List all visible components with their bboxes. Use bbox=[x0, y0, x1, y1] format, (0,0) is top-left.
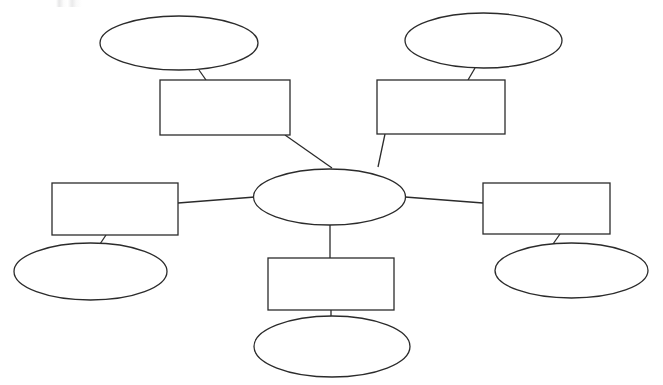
box-top-right[interactable] bbox=[377, 80, 505, 134]
connector-center-to-top-right-box bbox=[378, 134, 385, 167]
bubble-bottom[interactable] bbox=[254, 316, 410, 377]
bubble-right[interactable] bbox=[495, 243, 648, 298]
central-topic-ellipse[interactable] bbox=[254, 169, 406, 225]
connector-top-right-box-to-bubble bbox=[468, 68, 475, 80]
worksheet-canvas bbox=[0, 0, 663, 385]
bubble-top-right[interactable] bbox=[405, 13, 562, 68]
connector-center-to-top-left-box bbox=[285, 135, 332, 168]
box-top-left[interactable] bbox=[160, 80, 290, 135]
connector-right-box-to-bubble bbox=[553, 234, 560, 244]
connector-center-to-left-box bbox=[178, 197, 255, 203]
box-bottom[interactable] bbox=[268, 258, 394, 310]
central-topic-group bbox=[254, 169, 406, 225]
bubble-left[interactable] bbox=[14, 243, 167, 300]
concept-map-diagram bbox=[0, 0, 663, 385]
bubble-top-left[interactable] bbox=[100, 16, 258, 70]
box-left[interactable] bbox=[52, 183, 178, 235]
box-right[interactable] bbox=[483, 183, 610, 234]
connector-center-to-right-box bbox=[405, 197, 483, 203]
connector-top-left-box-to-bubble bbox=[199, 70, 206, 80]
